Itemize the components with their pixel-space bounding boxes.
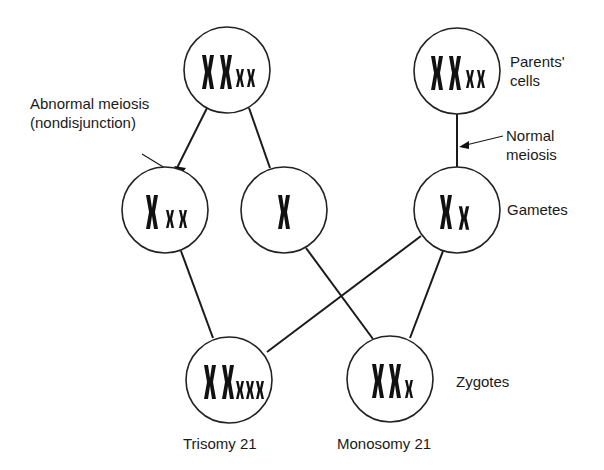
label-monosomy: Monosomy 21 <box>337 434 431 453</box>
label-trisomy: Trisomy 21 <box>183 434 257 453</box>
label-normal-meiosis: Normal meiosis <box>506 126 557 164</box>
gamete-nullisomic <box>241 167 327 253</box>
parent-cell-abnormal <box>184 27 270 113</box>
zygote-trisomy <box>186 337 272 423</box>
edge-disomic-to-trisomy <box>181 251 213 338</box>
normal-meiosis-arrow <box>466 136 503 145</box>
parent-cell-normal <box>414 28 500 114</box>
edge-parent-to-nullisomic <box>249 108 270 168</box>
edge-normal-to-trisomy <box>267 236 421 352</box>
gamete-disomic <box>122 167 208 253</box>
label-gametes: Gametes <box>507 200 568 219</box>
zygote-monosomy <box>347 336 433 422</box>
label-zygotes: Zygotes <box>456 372 509 391</box>
label-abnormal-meiosis: Abnormal meiosis (nondisjunction) <box>30 94 149 132</box>
edge-parent-to-disomic <box>177 108 207 168</box>
edge-nullisomic-to-monosomy <box>306 248 373 339</box>
label-parents-cells: Parents' cells <box>510 52 565 90</box>
gamete-normal <box>414 167 500 253</box>
edge-normal-to-monosomy <box>410 251 443 338</box>
